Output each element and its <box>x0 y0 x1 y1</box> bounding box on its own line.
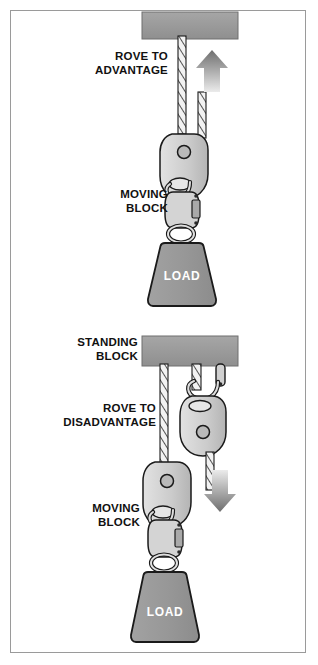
anchor-beam-upper <box>142 12 238 39</box>
pulley-diagram-figure: LOAD <box>0 0 318 665</box>
shackle-upper <box>165 192 200 228</box>
standing-block-body <box>180 396 226 456</box>
lower-panel-graphics: LOAD <box>131 336 238 642</box>
rope-standing-upper <box>178 36 186 134</box>
label-rove-to-disadvantage: ROVE TO DISADVANTAGE <box>12 402 156 429</box>
label-moving-block-lower: MOVING BLOCK <box>20 502 140 529</box>
load-label-lower: LOAD <box>147 605 183 619</box>
label-moving-block-upper: MOVING BLOCK <box>20 188 168 215</box>
label-rove-to-advantage: ROVE TO ADVANTAGE <box>20 50 168 77</box>
load-label-upper: LOAD <box>164 269 200 283</box>
arrow-up-icon <box>196 50 228 92</box>
shackle-lower <box>148 520 183 557</box>
rope-hauling-upper <box>198 92 206 138</box>
standing-block-hanger <box>192 364 225 390</box>
label-standing-block: STANDING BLOCK <box>20 336 138 363</box>
diagram-canvas: LOAD <box>0 0 318 665</box>
rope-left-lower <box>160 364 168 468</box>
anchor-beam-lower <box>142 336 238 366</box>
